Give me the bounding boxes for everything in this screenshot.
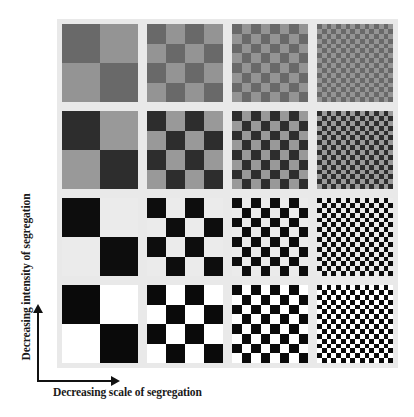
checkerboard-tile-r3-c3 bbox=[317, 285, 393, 363]
checkerboard-tile-r2-c0 bbox=[62, 198, 138, 276]
y-axis-arrow-line bbox=[37, 310, 39, 382]
y-axis-label: Decreasing intensity of segregation bbox=[20, 194, 32, 361]
checkerboard-tile-r3-c1 bbox=[147, 285, 223, 363]
checkerboard-tile-r2-c1 bbox=[147, 198, 223, 276]
checkerboard-tile-r0-c0 bbox=[62, 24, 138, 102]
x-axis-label: Decreasing scale of segregation bbox=[53, 386, 202, 398]
checkerboard-tile-r1-c1 bbox=[147, 111, 223, 189]
checkerboard-tile-r1-c2 bbox=[232, 111, 308, 189]
checkerboard-tile-r3-c0 bbox=[62, 285, 138, 363]
checkerboard-tile-r1-c3 bbox=[317, 111, 393, 189]
checkerboard-tile-r2-c3 bbox=[317, 198, 393, 276]
checkerboard-tile-r2-c2 bbox=[232, 198, 308, 276]
checkerboard-tile-r0-c2 bbox=[232, 24, 308, 102]
checkerboard-tile-r0-c1 bbox=[147, 24, 223, 102]
x-axis-arrow-line bbox=[37, 380, 113, 382]
checkerboard-tile-r3-c2 bbox=[232, 285, 308, 363]
checkerboard-tile-r0-c3 bbox=[317, 24, 393, 102]
arrow-up-icon bbox=[33, 304, 43, 313]
checkerboard-tile-r1-c0 bbox=[62, 111, 138, 189]
arrow-right-icon bbox=[111, 376, 120, 386]
